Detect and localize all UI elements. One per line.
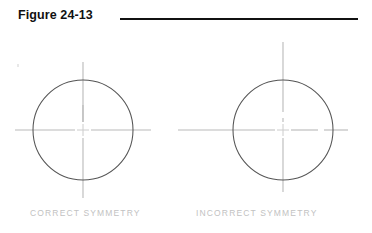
symmetry-comparison-svg bbox=[0, 0, 372, 233]
panel-incorrect-symmetry bbox=[178, 42, 348, 192]
center-mark-incorrect bbox=[277, 124, 289, 136]
center-mark-correct bbox=[77, 124, 89, 136]
scan-artifact-speck bbox=[17, 64, 19, 67]
panel-correct-symmetry bbox=[15, 62, 151, 198]
technical-drawing-canvas bbox=[0, 0, 372, 233]
caption-incorrect-symmetry: INCORRECT SYMMETRY bbox=[196, 208, 317, 218]
caption-correct-symmetry: CORRECT SYMMETRY bbox=[30, 208, 141, 218]
